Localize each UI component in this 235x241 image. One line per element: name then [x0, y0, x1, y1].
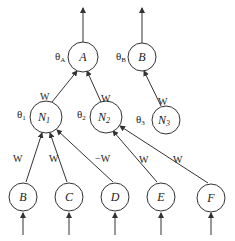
node-b-label: B: [19, 190, 27, 204]
node-a-label: A: [78, 50, 87, 64]
node-c: C: [55, 183, 83, 211]
node-e-label: E: [156, 190, 165, 204]
edge-n2-a: [87, 71, 101, 102]
weight-n3-btop: W: [158, 96, 168, 107]
node-b-top: B: [128, 43, 156, 71]
weight-d-n1: −W: [95, 153, 111, 164]
weight-f-n2: W: [173, 154, 183, 165]
edge-n1-a: [52, 71, 77, 102]
edge-e-n2: [113, 131, 157, 182]
node-n3: N3: [152, 106, 180, 134]
weight-c-n1: W: [49, 153, 59, 164]
node-d: D: [101, 183, 129, 211]
weight-n2-a: W: [101, 93, 111, 104]
node-c-label: C: [65, 190, 74, 204]
theta-1: θ1: [17, 108, 26, 122]
theta-3: θ3: [136, 113, 145, 127]
neural-network-diagram: A θA B θB N1 θ1 N2 θ2 N3 θ3 B C D E: [0, 0, 235, 241]
node-d-label: D: [110, 190, 120, 204]
node-f: F: [197, 184, 225, 212]
node-f-label: F: [206, 191, 215, 205]
theta-a: θA: [55, 50, 65, 64]
theta-b: θB: [116, 50, 126, 64]
edge-b-n1: [26, 133, 42, 182]
node-e: E: [147, 183, 175, 211]
weight-b-n1: W: [13, 153, 23, 164]
weight-n1-a: W: [40, 91, 50, 102]
theta-2: θ2: [77, 108, 86, 122]
node-n1: N1: [30, 101, 62, 133]
node-a: A: [68, 42, 98, 72]
node-b: B: [9, 183, 37, 211]
node-b-top-label: B: [138, 50, 146, 64]
node-n2: N2: [90, 101, 122, 133]
weight-e-n2: W: [139, 154, 149, 165]
